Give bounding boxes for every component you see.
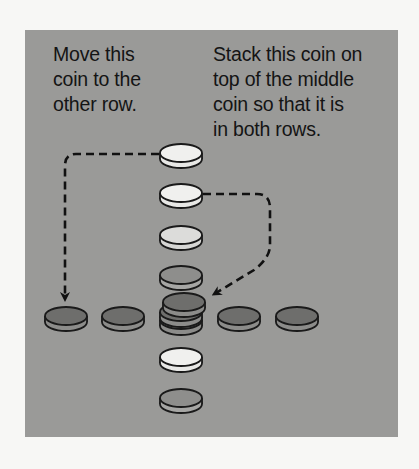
coin-diagram bbox=[0, 0, 419, 469]
move-arrow bbox=[65, 154, 159, 297]
coin-top-1 bbox=[160, 144, 202, 168]
stack-arrow bbox=[203, 194, 270, 293]
